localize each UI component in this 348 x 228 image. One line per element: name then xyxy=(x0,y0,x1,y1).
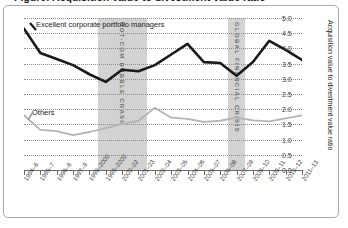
page-title: Figure: Acquisition value to divestment … xyxy=(14,0,314,3)
y-tick-label: 1.5 xyxy=(282,121,292,128)
series-line-1 xyxy=(24,29,302,82)
series-annotation-2: Others xyxy=(32,108,55,117)
y-tick-label: 3.5 xyxy=(282,60,292,67)
y-tick-label: 3.0 xyxy=(282,75,292,82)
series-lines xyxy=(24,18,302,170)
series-annotation-1: Excellent corporate portfolio managers xyxy=(36,20,164,29)
y-tick-label: 0.5 xyxy=(282,151,292,158)
y-axis-title: Acquisition value to divestment value ra… xyxy=(327,20,334,170)
y-tick-label: 4.5 xyxy=(282,30,292,37)
y-tick-label: 1.0 xyxy=(282,136,292,143)
series-line-2 xyxy=(24,108,302,135)
y-tick-label: 2.0 xyxy=(282,106,292,113)
y-tick-label: 4.0 xyxy=(282,45,292,52)
y-tick-label: 2.5 xyxy=(282,91,292,98)
y-tick-label: 5.0 xyxy=(282,15,292,22)
plot-area: DOT-COM BUBBLE CRASHGLOBAL FINANCIAL CRI… xyxy=(24,18,302,170)
chart-figure: Figure: Acquisition value to divestment … xyxy=(0,0,348,228)
